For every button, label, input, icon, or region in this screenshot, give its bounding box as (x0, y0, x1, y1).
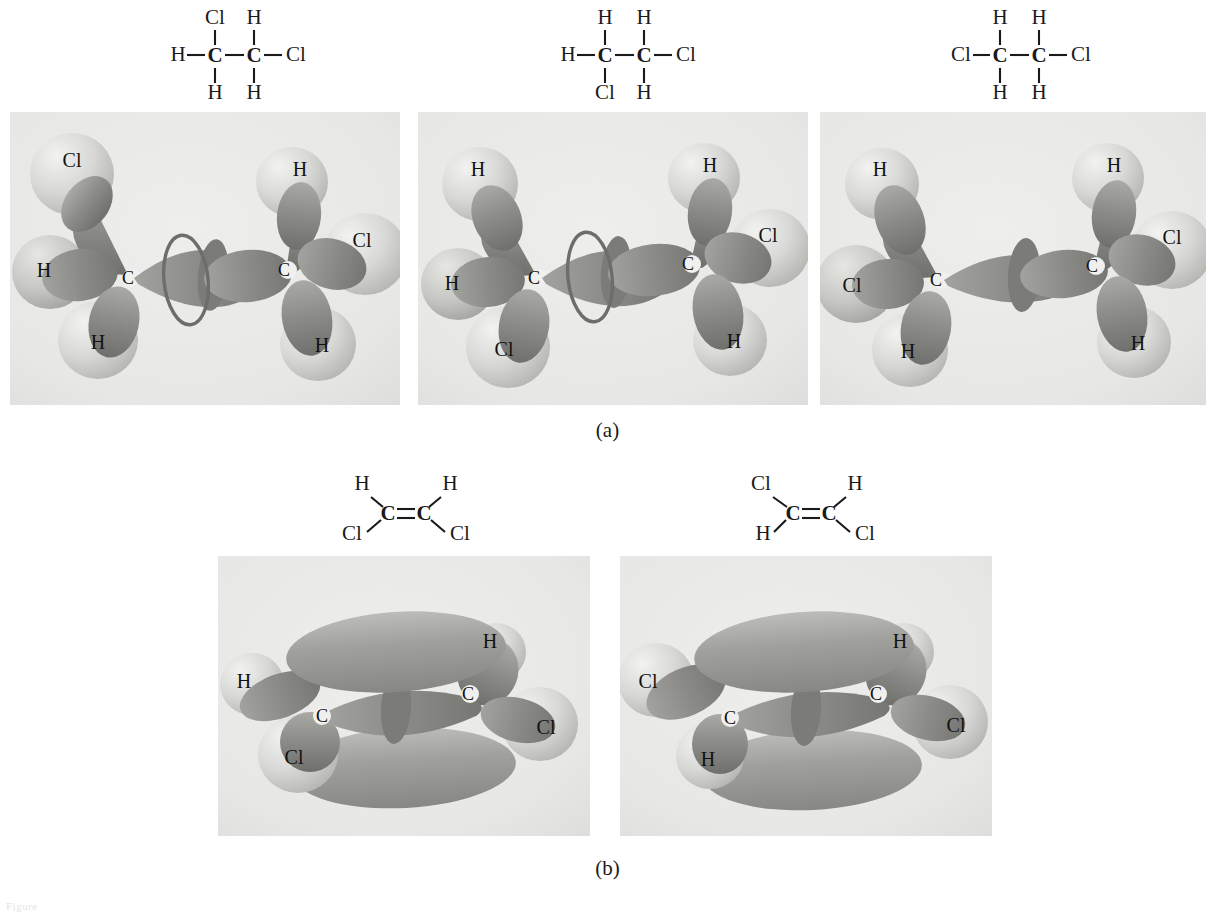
label-left-carbon: C (207, 43, 222, 67)
part-b-label: (b) (0, 856, 1215, 881)
atom-label-h-rb: H (315, 334, 329, 356)
atom-label-c-left: C (724, 708, 736, 728)
label-right-carbon: C (416, 501, 431, 525)
atom-label-cl-left: Cl (63, 149, 82, 171)
label-right-top: H (636, 5, 651, 29)
atom-label-c-right: C (1086, 256, 1098, 276)
label-left-carbon: C (992, 43, 1007, 67)
label-left-top: Cl (205, 5, 225, 29)
label-right-side: Cl (676, 42, 696, 66)
atom-label-h-rb: H (727, 330, 741, 352)
label-right-top: H (442, 471, 457, 495)
label-left-top: H (354, 471, 369, 495)
label-left-side: H (170, 42, 185, 66)
orbital-panel-a1: Cl H H C H Cl H C (10, 112, 400, 405)
atom-label-cl-left: Cl (843, 274, 862, 296)
atom-label-c-right: C (278, 260, 290, 280)
label-left-top: H (597, 5, 612, 29)
lewis-formula-b2: Cl H H Cl C C (715, 468, 905, 548)
orbital-panel-a3: H Cl H C H Cl H C (820, 112, 1206, 405)
label-right-bottom: H (636, 80, 651, 104)
atom-label-h-left: H (37, 259, 51, 281)
label-right-bottom: Cl (450, 521, 470, 545)
atom-label-c-left: C (528, 268, 540, 288)
orbital-panel-b2: Cl H H Cl C C (620, 556, 992, 836)
label-right-top: H (847, 471, 862, 495)
label-left-bottom: Cl (595, 80, 615, 104)
label-left-carbon: C (597, 43, 612, 67)
lewis-formula-a2: H H H C C Cl Cl H (540, 4, 730, 108)
atom-label-h-rt: H (293, 158, 307, 180)
atom-label-h-right: H (483, 630, 497, 652)
atom-label-h-rt: H (1107, 154, 1121, 176)
label-left-bottom: H (992, 80, 1007, 104)
label-left-carbon: C (785, 501, 800, 525)
label-right-carbon: C (246, 43, 261, 67)
label-right-top: H (246, 5, 261, 29)
atom-label-c-left: C (930, 270, 942, 290)
lewis-formula-b1: H H Cl Cl C C (310, 468, 500, 548)
label-right-carbon: C (821, 501, 836, 525)
atom-label-cl-left: Cl (285, 746, 304, 768)
atom-label-c-right: C (870, 684, 882, 704)
atom-label-h-rt: H (703, 154, 717, 176)
label-right-bottom: H (1031, 80, 1046, 104)
atom-label-cl-right: Cl (353, 229, 372, 251)
label-left-bottom: Cl (342, 521, 362, 545)
atom-label-c-right: C (682, 254, 694, 274)
atom-label-h-lt: H (873, 158, 887, 180)
atom-label-cl-right: Cl (947, 714, 966, 736)
label-left-top: Cl (751, 471, 771, 495)
label-left-side: Cl (951, 42, 971, 66)
atom-label-cl-left: Cl (639, 670, 658, 692)
label-right-bottom: H (246, 80, 261, 104)
atom-label-h-lt: H (471, 158, 485, 180)
label-left-bottom: H (207, 80, 222, 104)
label-left-bottom: H (755, 521, 770, 545)
atom-label-h-left: H (237, 670, 251, 692)
atom-label-h-lb: H (901, 340, 915, 362)
atom-label-cl-lb: Cl (495, 338, 514, 360)
atom-label-cl-right: Cl (759, 224, 778, 246)
lewis-formula-a1: Cl H H C C Cl H H (150, 4, 340, 108)
label-left-carbon: C (380, 501, 395, 525)
atom-label-h-left: H (701, 748, 715, 770)
label-left-top: H (992, 5, 1007, 29)
atom-label-h-right: H (893, 630, 907, 652)
figure-caption-faint: Figure (6, 900, 38, 912)
label-right-side: Cl (286, 42, 306, 66)
atom-label-c-left: C (122, 268, 134, 288)
atom-label-c-left: C (316, 706, 328, 726)
label-right-top: H (1031, 5, 1046, 29)
atom-label-cl-right: Cl (537, 716, 556, 738)
lewis-formula-a3: H H Cl C C Cl H H (935, 4, 1125, 108)
label-left-side: H (560, 42, 575, 66)
atom-label-c-right: C (462, 684, 474, 704)
atom-label-h-rb: H (1131, 332, 1145, 354)
orbital-panel-b1: H Cl H Cl C C (218, 556, 590, 836)
atom-label-cl-right: Cl (1163, 226, 1182, 248)
part-a-label: (a) (0, 418, 1215, 443)
label-right-carbon: C (636, 43, 651, 67)
orbital-panel-a2: H H Cl C H Cl H C (418, 112, 808, 405)
label-right-bottom: Cl (855, 521, 875, 545)
atom-label-h-lm: H (445, 272, 459, 294)
label-right-side: Cl (1071, 42, 1091, 66)
label-right-carbon: C (1031, 43, 1046, 67)
atom-label-h-lower: H (91, 331, 105, 353)
